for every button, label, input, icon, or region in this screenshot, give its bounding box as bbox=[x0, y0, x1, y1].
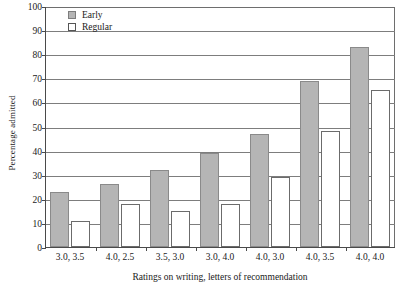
x-tick-mark bbox=[146, 247, 147, 251]
y-tick-label: 10 bbox=[12, 219, 42, 229]
y-tick-label: 100 bbox=[12, 2, 42, 12]
bar-group bbox=[246, 7, 296, 247]
legend-swatch-early-icon bbox=[68, 11, 76, 19]
bar-group bbox=[346, 7, 396, 247]
x-tick-mark bbox=[246, 247, 247, 251]
bar-regular bbox=[371, 90, 390, 247]
y-tick-label: 90 bbox=[12, 26, 42, 36]
x-tick-mark bbox=[296, 247, 297, 251]
bar-regular bbox=[321, 131, 340, 247]
bar-group bbox=[146, 7, 196, 247]
plot-area bbox=[45, 7, 395, 248]
bar-early bbox=[200, 153, 219, 247]
x-tick-label: 4.0, 4.0 bbox=[338, 252, 402, 262]
x-tick-mark bbox=[96, 247, 97, 251]
y-tick-label: 20 bbox=[12, 195, 42, 205]
bar-regular bbox=[271, 177, 290, 247]
bar-regular bbox=[71, 221, 90, 248]
bar-early bbox=[250, 134, 269, 247]
bar-group bbox=[96, 7, 146, 247]
legend-swatch-regular-icon bbox=[68, 23, 76, 31]
bar-regular bbox=[121, 204, 140, 247]
bar-early bbox=[300, 81, 319, 247]
chart-legend: Early Regular bbox=[68, 9, 112, 33]
y-tick-label: 80 bbox=[12, 50, 42, 60]
bar-regular bbox=[171, 211, 190, 247]
legend-label-regular: Regular bbox=[82, 21, 112, 33]
y-tick-label: 50 bbox=[12, 123, 42, 133]
bar-regular bbox=[221, 204, 240, 247]
bar-early bbox=[150, 170, 169, 247]
x-axis-title: Ratings on writing, letters of recommend… bbox=[45, 272, 395, 283]
y-tick-label: 30 bbox=[12, 171, 42, 181]
bar-early bbox=[100, 184, 119, 247]
legend-label-early: Early bbox=[82, 9, 103, 21]
bar-group bbox=[46, 7, 96, 247]
bar-chart: Percentage admitted Early Regular Rating… bbox=[0, 0, 402, 283]
y-tick-label: 70 bbox=[12, 74, 42, 84]
bar-group bbox=[296, 7, 346, 247]
bar-early bbox=[350, 47, 369, 247]
legend-item-regular: Regular bbox=[68, 21, 112, 33]
y-tick-label: 40 bbox=[12, 147, 42, 157]
legend-item-early: Early bbox=[68, 9, 112, 21]
y-tick-label: 60 bbox=[12, 98, 42, 108]
y-tick-mark bbox=[42, 248, 46, 249]
x-tick-mark bbox=[346, 247, 347, 251]
x-tick-mark bbox=[196, 247, 197, 251]
bar-group bbox=[196, 7, 246, 247]
bar-early bbox=[50, 192, 69, 247]
